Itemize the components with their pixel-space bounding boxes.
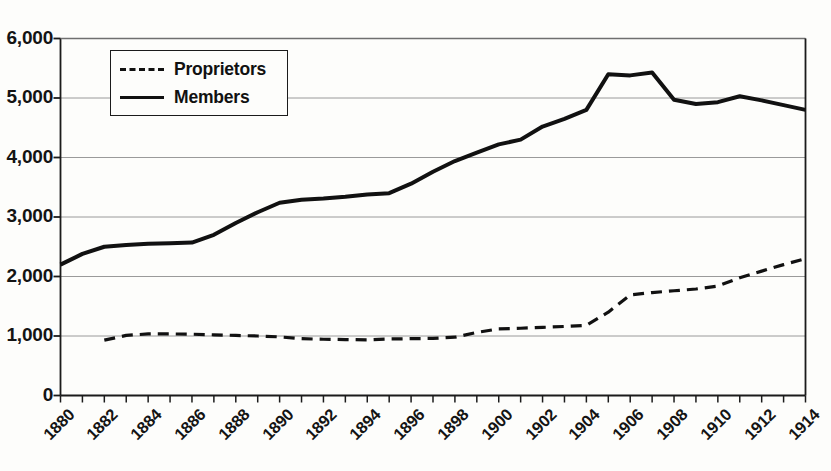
legend-swatch-dashed-icon bbox=[120, 68, 164, 71]
y-axis-label-3000: 3,000 bbox=[0, 205, 53, 227]
y-axis-label-1000: 1,000 bbox=[0, 324, 53, 346]
legend-entry-members: Members bbox=[120, 84, 249, 110]
legend-label-members: Members bbox=[174, 87, 249, 108]
y-axis-label-6000: 6,000 bbox=[0, 27, 53, 49]
legend-label-proprietors: Proprietors bbox=[174, 59, 266, 80]
chart-legend: Proprietors Members bbox=[110, 50, 288, 116]
line-chart: 01,0002,0003,0004,0005,0006,000 18801882… bbox=[0, 0, 831, 471]
legend-entry-proprietors: Proprietors bbox=[120, 56, 266, 82]
y-axis-label-2000: 2,000 bbox=[0, 265, 53, 287]
y-axis-label-5000: 5,000 bbox=[0, 86, 53, 108]
legend-swatch-solid-icon bbox=[120, 96, 164, 99]
y-axis-label-0: 0 bbox=[0, 384, 53, 406]
y-axis-label-4000: 4,000 bbox=[0, 146, 53, 168]
